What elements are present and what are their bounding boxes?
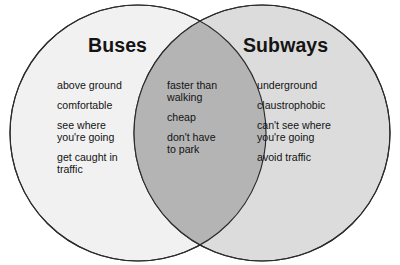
list-item: can't see where you're going	[257, 120, 375, 144]
right-set-item-list: underground claustrophobic can't see whe…	[257, 80, 375, 164]
left-set-title: Buses	[88, 36, 147, 56]
right-set-title: Subways	[243, 36, 328, 56]
list-item: faster than walking	[167, 80, 235, 104]
list-item: cheap	[167, 112, 235, 124]
list-item: avoid traffic	[257, 152, 375, 164]
list-item: comfortable	[57, 100, 157, 112]
list-item: claustrophobic	[257, 100, 375, 112]
left-set-item-list: above ground comfortable see where you'r…	[57, 80, 157, 176]
list-item: underground	[257, 80, 375, 92]
intersection-item-list: faster than walking cheap don't have to …	[167, 80, 235, 156]
list-item: above ground	[57, 80, 157, 92]
list-item: see where you're going	[57, 120, 157, 144]
venn-diagram: Buses Subways above ground comfortable s…	[0, 0, 400, 265]
list-item: get caught in traffic	[57, 152, 157, 176]
list-item: don't have to park	[167, 132, 235, 156]
